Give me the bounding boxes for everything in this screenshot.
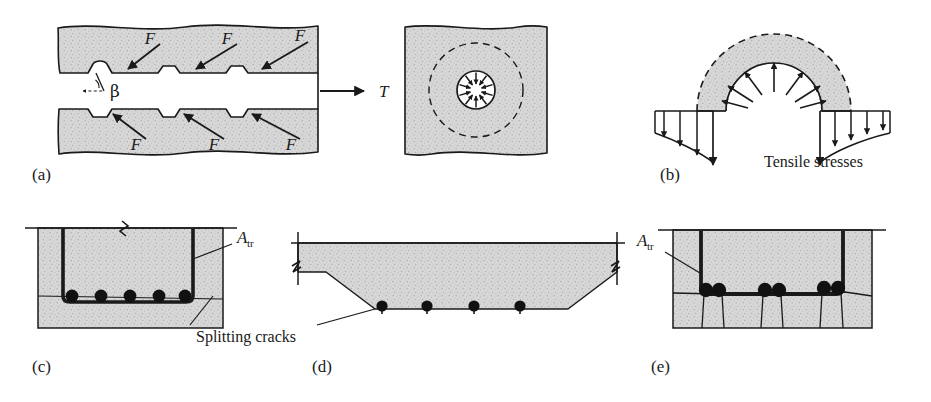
panel-label-b: (b)	[660, 165, 680, 184]
beta-arc	[96, 80, 100, 88]
panel-c: A tr (c)	[25, 221, 254, 376]
beta-label: β	[110, 81, 120, 101]
panel-a: F F F F F F β T (a)	[32, 25, 390, 184]
panel-e-atr-sub: tr	[647, 240, 654, 252]
force-label-upper-2: F	[221, 29, 233, 48]
panel-b-stress-left	[655, 111, 714, 165]
panel-a-cross-section	[405, 26, 547, 155]
panel-c-atr-sub: tr	[247, 237, 254, 249]
force-label-lower-3: F	[285, 135, 297, 154]
splitting-leader-d	[317, 309, 375, 325]
panel-e: A tr (e)	[636, 230, 886, 376]
panel-label-d: (d)	[312, 357, 332, 376]
panel-label-e: (e)	[651, 357, 670, 376]
tension-label-a: T	[379, 82, 390, 101]
panel-b: Tensile stresses (b)	[655, 34, 890, 184]
panel-c-concrete	[38, 228, 223, 328]
figure-svg: F F F F F F β T (a)	[0, 0, 931, 402]
panel-a-concrete-upper	[58, 25, 318, 73]
figure-container: F F F F F F β T (a)	[0, 0, 931, 402]
force-label-upper-3: F	[294, 26, 306, 45]
panel-d: (d)	[291, 232, 625, 376]
panel-label-c: (c)	[32, 357, 51, 376]
force-label-upper-1: F	[144, 29, 156, 48]
splitting-cracks-label: Splitting cracks	[196, 328, 296, 346]
force-label-lower-2: F	[208, 135, 220, 154]
tensile-stresses-label: Tensile stresses	[764, 153, 863, 170]
force-label-lower-1: F	[130, 135, 142, 154]
panel-d-concrete	[298, 243, 617, 309]
panel-label-a: (a)	[32, 165, 51, 184]
